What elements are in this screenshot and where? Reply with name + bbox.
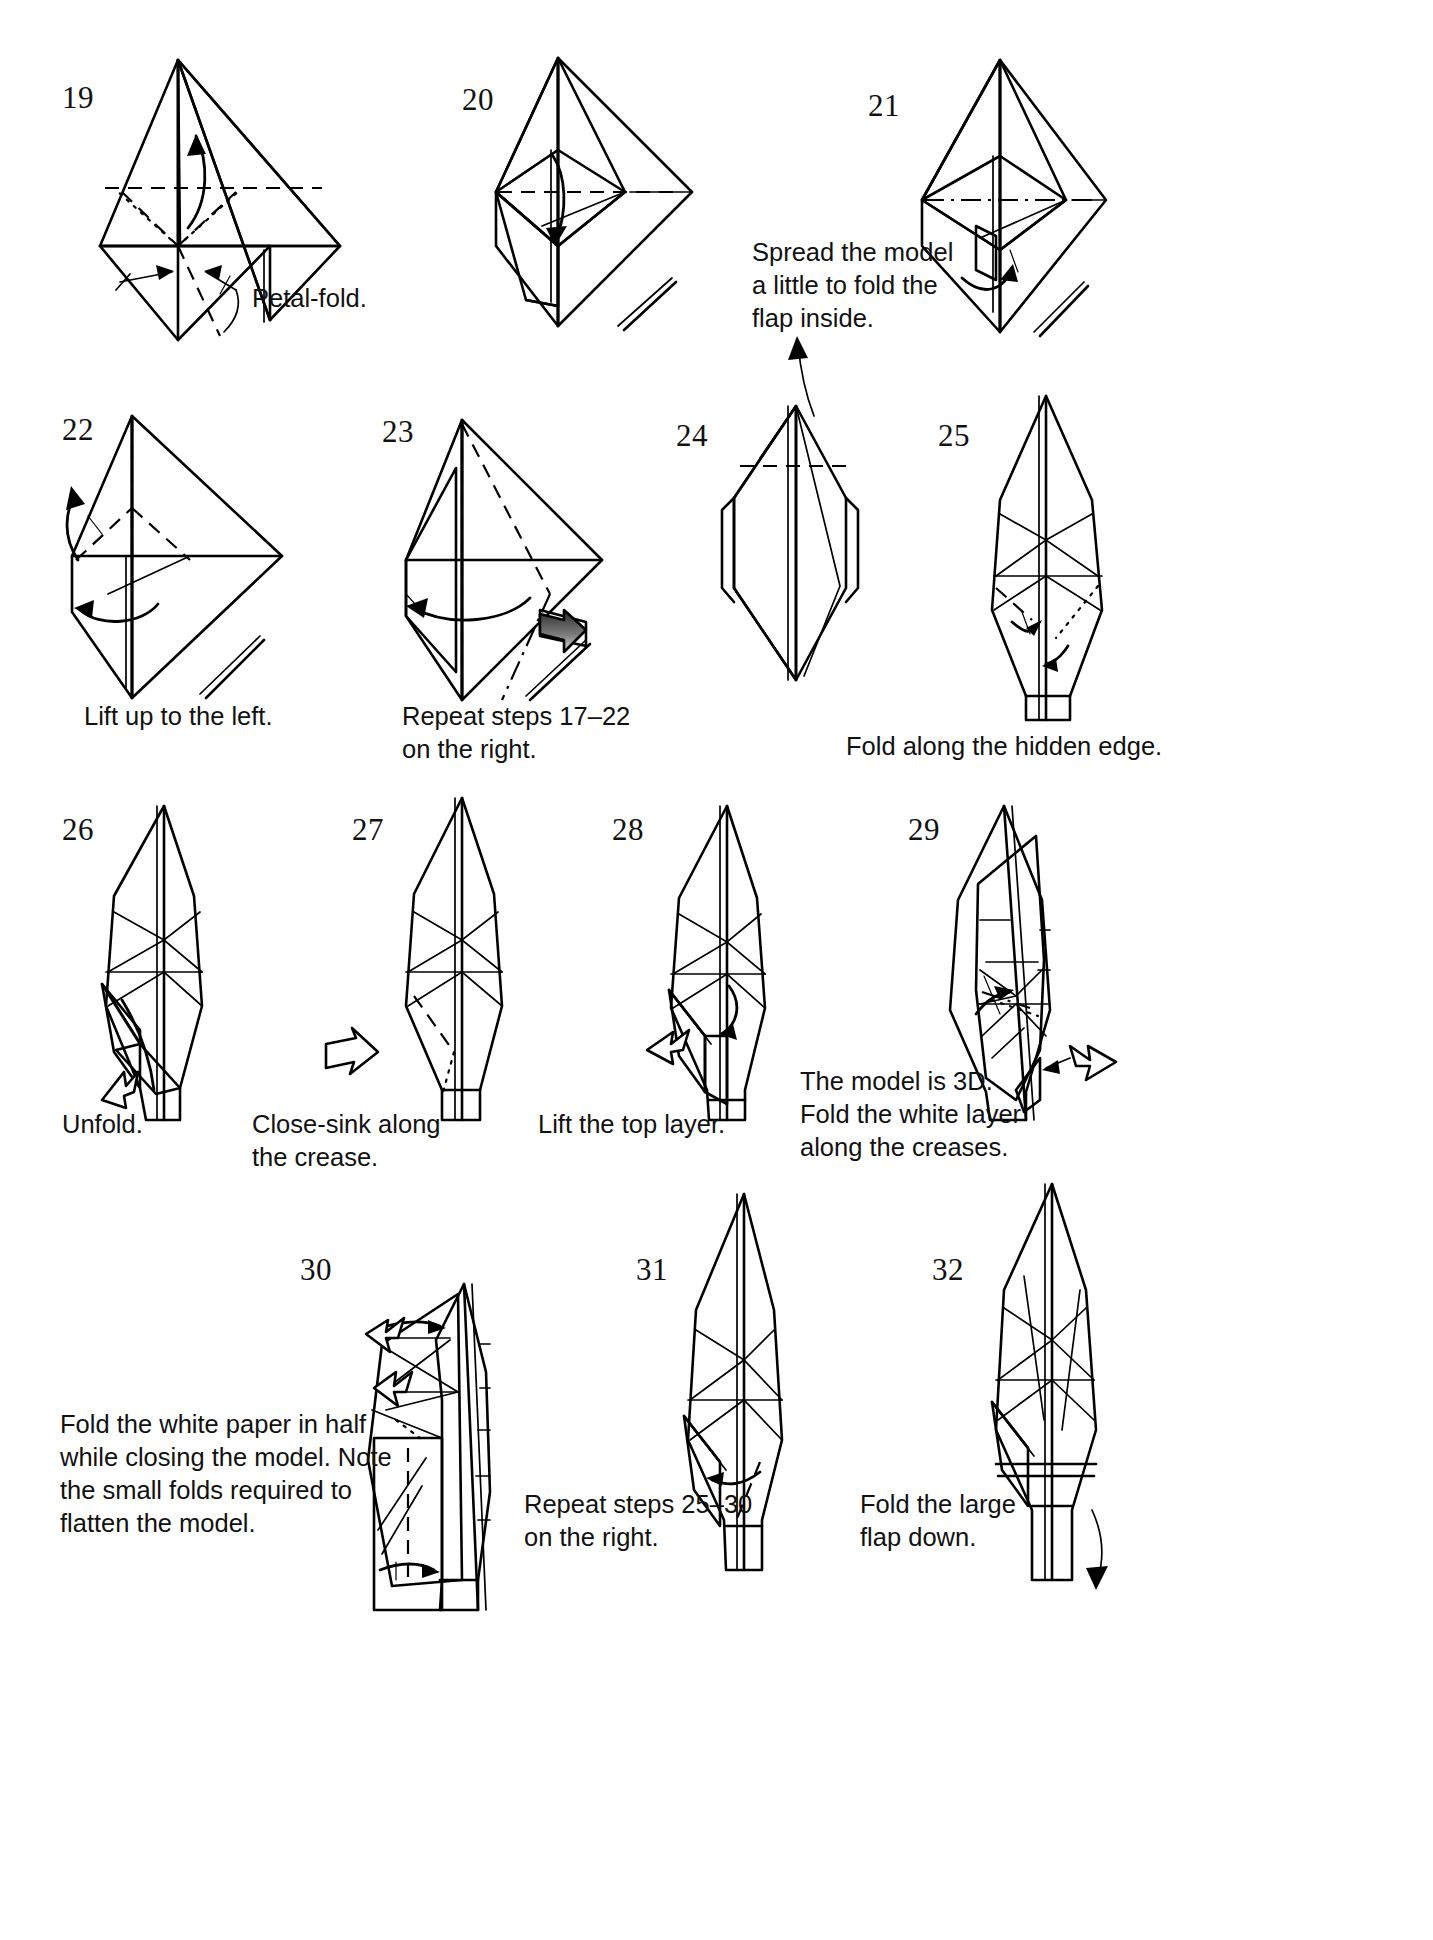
step-22-number: 22 [62, 412, 94, 448]
step-28-number: 28 [612, 812, 644, 848]
step-26-figure [80, 800, 270, 1130]
step-29-caption: The model is 3D. Fold the white layer al… [800, 1065, 1021, 1164]
step-24-number: 24 [676, 418, 708, 454]
step-26-number: 26 [62, 812, 94, 848]
step-31-number: 31 [636, 1252, 668, 1288]
step-23-figure [380, 408, 670, 708]
step-25-number: 25 [938, 418, 970, 454]
step-22-figure [50, 408, 340, 708]
step-31-caption: Repeat steps 25–30 on the right. [524, 1488, 752, 1554]
step-20-number: 20 [462, 82, 494, 118]
step-25-caption: Fold along the hidden edge. [846, 730, 1162, 763]
step-27-figure [380, 790, 570, 1130]
step-19-caption: Petal-fold. [252, 282, 367, 315]
step-28-caption: Lift the top layer. [538, 1108, 725, 1141]
step-30-number: 30 [300, 1252, 332, 1288]
step-26-caption: Unfold. [62, 1108, 143, 1141]
origami-diagram-page: 19 Petal-fold. 20 [0, 0, 1433, 1940]
step-21-caption: Spread the model a little to fold the fl… [752, 236, 953, 335]
step-21-number: 21 [868, 88, 900, 124]
step-30-caption: Fold the white paper in half while closi… [60, 1408, 392, 1541]
step-19-number: 19 [62, 80, 94, 116]
step-27-number: 27 [352, 812, 384, 848]
step-23-caption: Repeat steps 17–22 on the right. [402, 700, 630, 766]
step-27-push-arrow [322, 1028, 382, 1088]
step-27-caption: Close-sink along the crease. [252, 1108, 441, 1174]
step-32-caption: Fold the large flap down. [860, 1488, 1016, 1554]
step-25-figure [960, 390, 1140, 730]
step-22-caption: Lift up to the left. [84, 700, 273, 733]
step-23-number: 23 [382, 414, 414, 450]
step-32-number: 32 [932, 1252, 964, 1288]
step-24-figure [700, 398, 880, 698]
step-20-figure [480, 50, 730, 350]
step-29-number: 29 [908, 812, 940, 848]
step-19-figure [60, 50, 400, 370]
